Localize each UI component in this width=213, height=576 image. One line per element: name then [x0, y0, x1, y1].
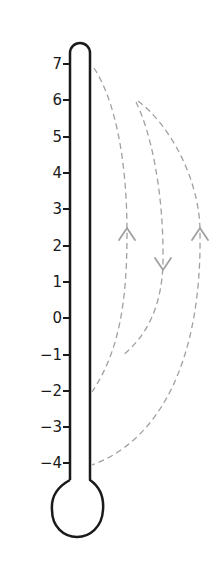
dashed-arc-outer-minus4 [92, 101, 200, 465]
thermometer-graphic [0, 0, 213, 576]
dashed-arc-7-to-minus2 [92, 68, 127, 392]
thermometer-outline [52, 43, 103, 537]
